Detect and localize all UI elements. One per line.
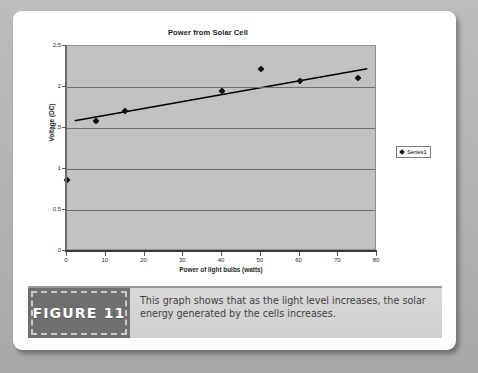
legend-marker-icon: [399, 149, 405, 155]
figure-number-badge: FIGURE 11: [28, 288, 130, 338]
x-tick: [337, 252, 338, 256]
y-tick: [62, 209, 66, 210]
y-tick-label: 1: [39, 165, 61, 171]
x-tick-label: 10: [95, 257, 115, 263]
y-tick-label: 0: [39, 247, 61, 253]
chart-legend[interactable]: Series1: [396, 146, 431, 158]
x-tick-label: 70: [327, 257, 347, 263]
x-tick: [221, 252, 222, 256]
figure-number-label: FIGURE 11: [32, 305, 125, 321]
y-tick: [62, 86, 66, 87]
y-tick-label: 0.5: [39, 206, 61, 212]
x-tick-label: 40: [211, 257, 231, 263]
x-tick: [66, 252, 67, 256]
y-axis-title: Voltage (DC): [48, 104, 55, 142]
y-tick: [62, 168, 66, 169]
x-tick: [144, 252, 145, 256]
trendline: [67, 46, 375, 249]
x-tick-label: 80: [366, 257, 386, 263]
x-tick: [105, 252, 106, 256]
x-tick-label: 20: [134, 257, 154, 263]
x-axis-title: Power of light bulbs (watts): [66, 266, 376, 273]
y-tick: [62, 250, 66, 251]
x-tick: [299, 252, 300, 256]
x-tick: [376, 252, 377, 256]
plot-area: [66, 45, 376, 250]
caption-text: This graph shows that as the light level…: [130, 288, 442, 338]
gridline: [67, 210, 375, 211]
x-tick-label: 0: [56, 257, 76, 263]
legend-label: Series1: [407, 149, 427, 155]
figure-card: Power from Solar Cell Voltage (DC) Power…: [13, 11, 456, 350]
y-tick-label: 1.5: [39, 124, 61, 130]
y-tick-label: 2: [39, 83, 61, 89]
chart-title: Power from Solar Cell: [13, 28, 403, 37]
y-tick-label: 2.5: [39, 42, 61, 48]
figure-caption: FIGURE 11 This graph shows that as the l…: [28, 288, 442, 338]
y-tick: [62, 45, 66, 46]
y-axis-line: [65, 45, 67, 251]
x-tick-label: 50: [250, 257, 270, 263]
chart-container: Power from Solar Cell Voltage (DC) Power…: [13, 11, 456, 286]
x-tick-label: 60: [289, 257, 309, 263]
y-tick: [62, 127, 66, 128]
x-tick-label: 30: [172, 257, 192, 263]
x-tick: [182, 252, 183, 256]
x-tick: [260, 252, 261, 256]
gridline: [67, 169, 375, 170]
page-background: Power from Solar Cell Voltage (DC) Power…: [0, 0, 478, 373]
gridline: [67, 128, 375, 129]
